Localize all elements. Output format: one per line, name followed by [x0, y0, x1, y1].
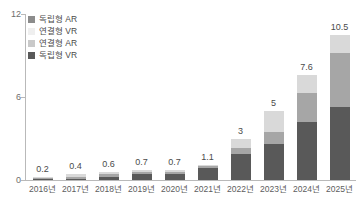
bar-segment: [297, 75, 317, 93]
bar-segment: [66, 179, 86, 180]
bar-segment: [330, 35, 350, 53]
x-axis-tick-label: 2019년: [124, 184, 160, 194]
y-tick-mark-6: [21, 97, 25, 98]
chart-legend: 독립형 AR연결형 VR연결형 AR독립형 VR: [28, 13, 77, 61]
legend-item[interactable]: 연결형 VR: [28, 25, 77, 37]
x-axis-tick-label: 2025년: [322, 184, 358, 194]
bar-segment: [165, 174, 185, 180]
legend-swatch-icon: [28, 52, 35, 59]
bar-value-label: 0.2: [36, 165, 49, 174]
bar-stack: [66, 174, 86, 180]
x-axis-tick-label: 2022년: [223, 184, 259, 194]
bar-stack: [99, 172, 119, 180]
bar-stack: [198, 165, 218, 180]
bar-stack: [231, 139, 251, 180]
x-axis-tick-label: 2017년: [58, 184, 94, 194]
legend-item[interactable]: 독립형 AR: [28, 13, 77, 25]
bar-segment: [132, 174, 152, 180]
x-axis-tick-label: 2023년: [256, 184, 292, 194]
stacked-bar-chart: 12 6 0 0.20.40.60.70.71.1357.610.5 2016년…: [0, 0, 361, 206]
bar-stack: [132, 170, 152, 180]
bar-value-label: 0.6: [102, 160, 115, 169]
bar-segment: [99, 177, 119, 180]
x-axis-tick-label: 2021년: [190, 184, 226, 194]
bar-segment: [297, 93, 317, 122]
x-axis-tick-label: 2018년: [91, 184, 127, 194]
bar-value-label: 0.7: [168, 158, 181, 167]
bar-segment: [297, 122, 317, 180]
legend-swatch-icon: [28, 28, 35, 35]
bar-stack: [264, 111, 284, 180]
y-tick-label-6: 6: [0, 93, 21, 102]
bar-stack: [33, 177, 53, 180]
legend-item-label: 연결형 VR: [39, 27, 77, 36]
legend-item-label: 독립형 VR: [39, 51, 77, 60]
bar-stack: [297, 75, 317, 180]
bar-segment: [231, 139, 251, 149]
bar-segment: [264, 111, 284, 132]
bar-segment: [33, 179, 53, 180]
y-tick-label-0: 0: [0, 176, 21, 185]
x-axis-tick-label: 2020년: [157, 184, 193, 194]
bar-value-label: 1.1: [201, 153, 214, 162]
bar-stack: [330, 35, 350, 180]
bar-segment: [330, 107, 350, 180]
legend-item-label: 연결형 AR: [39, 39, 77, 48]
bar-segment: [231, 154, 251, 180]
bar-value-label: 7.6: [300, 63, 313, 72]
legend-swatch-icon: [28, 40, 35, 47]
x-axis-tick-label: 2024년: [289, 184, 325, 194]
legend-item[interactable]: 연결형 AR: [28, 37, 77, 49]
bar-stack: [165, 170, 185, 180]
y-tick-mark-12: [21, 14, 25, 15]
x-axis-tick-label: 2016년: [25, 184, 61, 194]
bar-value-label: 3: [238, 127, 243, 136]
bar-value-label: 10.5: [331, 23, 349, 32]
bar-segment: [264, 144, 284, 180]
y-tick-label-12: 12: [0, 10, 21, 19]
legend-swatch-icon: [28, 16, 35, 23]
legend-item-label: 독립형 AR: [39, 15, 77, 24]
bar-segment: [264, 132, 284, 144]
bar-segment: [330, 53, 350, 107]
bar-segment: [198, 168, 218, 180]
x-axis-line: [25, 180, 356, 181]
bar-value-label: 5: [271, 99, 276, 108]
bar-value-label: 0.7: [135, 158, 148, 167]
legend-item[interactable]: 독립형 VR: [28, 49, 77, 61]
bar-value-label: 0.4: [69, 162, 82, 171]
